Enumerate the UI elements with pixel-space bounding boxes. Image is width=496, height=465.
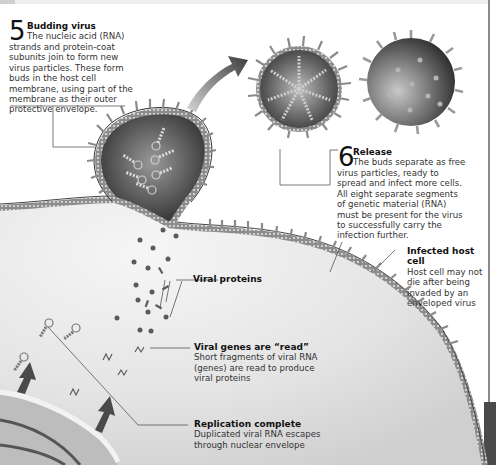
step-5-text: strands and protein-coat subunits join t… [9,42,137,115]
step-5-number: 5 [9,20,26,42]
callout-title: Viral proteins [193,274,283,284]
step-6-text-first: The buds separate as free [353,157,465,167]
callout-viral-genes-read: Viral genes are “read” Short fragments o… [194,342,324,384]
callout-title: Viral genes are “read” [194,342,324,352]
release-arrow [187,56,248,112]
step-6-description: Release The buds separate as free [353,147,483,168]
callout-title: Infected host cell [407,246,483,267]
step-6-text: virus particles, ready to spread and inf… [337,168,463,241]
callout-viral-proteins: Viral proteins [193,274,283,284]
step-5-title: Budding virus [27,21,96,31]
step-6-title: Release [353,147,392,157]
callout-text: Duplicated viral RNA escapes through nuc… [194,429,321,449]
virus-exterior [359,30,463,134]
step-5-description: Budding virus The nucleic acid (RNA) [27,21,157,42]
callout-title: Replication complete [194,419,334,429]
callout-text: Short fragments of viral RNA (genes) are… [194,352,317,383]
callout-replication-complete: Replication complete Duplicated viral RN… [194,419,334,450]
callout-text: Host cell may not die after being invade… [407,267,482,308]
step-5-text-first: The nucleic acid (RNA) [27,31,124,41]
callout-infected-host-cell: Infected host cell Host cell may not die… [407,246,483,308]
virus-cross-section [248,36,351,138]
